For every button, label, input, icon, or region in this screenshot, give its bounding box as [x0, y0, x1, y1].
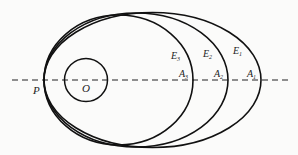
label-o: O	[82, 82, 90, 94]
label-a1: A1	[246, 68, 256, 80]
orbit-diagram: P O E3 E2 E1 A3 A2 A1	[0, 0, 298, 155]
label-p: P	[32, 84, 40, 96]
label-e3: E3	[170, 50, 180, 62]
diagram-canvas: P O E3 E2 E1 A3 A2 A1	[0, 0, 298, 155]
label-e1: E1	[232, 45, 242, 57]
label-e2: E2	[202, 48, 212, 60]
label-a2: A2	[213, 68, 223, 80]
label-a3: A3	[178, 68, 188, 80]
